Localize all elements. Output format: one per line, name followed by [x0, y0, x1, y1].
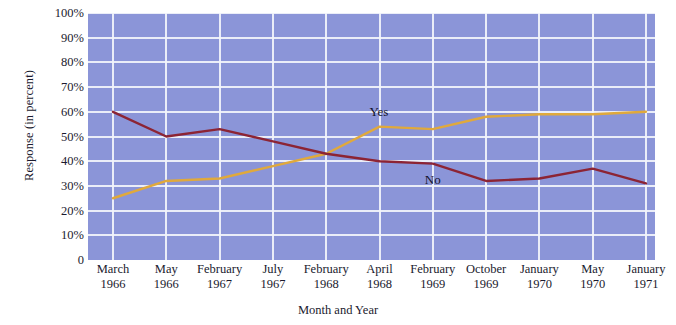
x-axis-tick-year: 1967 — [260, 277, 285, 292]
y-axis-tick: 60% — [61, 106, 84, 119]
x-axis-tick: February1967 — [197, 262, 242, 292]
x-axis-tick: March1966 — [97, 262, 130, 292]
y-axis-tick: 10% — [61, 229, 84, 242]
x-axis-tick-month: April — [366, 262, 392, 277]
y-axis-tick: 80% — [61, 56, 84, 69]
x-axis-tick-month: January — [627, 262, 666, 277]
series-label-no: No — [425, 172, 441, 188]
y-axis-tick: 50% — [61, 130, 84, 143]
x-axis-tick-labels: March1966May1966February1967July1967Febr… — [0, 262, 676, 302]
x-axis-tick-year: 1967 — [197, 277, 242, 292]
x-axis-tick-month: February — [410, 262, 455, 277]
x-axis-tick-year: 1969 — [410, 277, 455, 292]
x-axis-tick-month: March — [97, 262, 130, 277]
y-axis-tick: 100% — [55, 7, 84, 20]
x-axis-tick-year: 1969 — [466, 277, 506, 292]
x-axis-tick-year: 1966 — [97, 277, 130, 292]
plot-area: Yes No — [88, 13, 655, 260]
x-axis-tick-year: 1971 — [627, 277, 666, 292]
y-axis-tick: 40% — [61, 155, 84, 168]
x-axis-tick: May1966 — [154, 262, 179, 292]
x-axis-tick-month: May — [154, 262, 179, 277]
x-axis-tick: May1970 — [580, 262, 605, 292]
x-axis-tick: February1969 — [410, 262, 455, 292]
x-axis-tick: February1968 — [304, 262, 349, 292]
y-axis-tick: 30% — [61, 180, 84, 193]
x-axis-tick-month: January — [520, 262, 559, 277]
y-axis-tick: 90% — [61, 31, 84, 44]
x-axis-tick: April1968 — [366, 262, 392, 292]
x-axis-tick-year: 1968 — [366, 277, 392, 292]
x-axis-tick: January1971 — [627, 262, 666, 292]
x-axis-tick-month: October — [466, 262, 506, 277]
x-axis-tick-year: 1968 — [304, 277, 349, 292]
series-label-yes: Yes — [370, 104, 389, 120]
y-axis-tick: 70% — [61, 81, 84, 94]
series-line-yes — [113, 112, 646, 198]
x-axis-tick: July1967 — [260, 262, 285, 292]
line-chart: Response (in percent) 100%90%80%70%60%50… — [0, 0, 676, 325]
x-axis-tick-year: 1970 — [520, 277, 559, 292]
x-axis-tick: January1970 — [520, 262, 559, 292]
x-axis-tick-month: May — [580, 262, 605, 277]
series-lines — [88, 13, 655, 260]
x-axis-tick-month: February — [304, 262, 349, 277]
x-axis-tick-month: February — [197, 262, 242, 277]
x-axis-tick-year: 1970 — [580, 277, 605, 292]
series-line-no — [113, 112, 646, 184]
x-axis-tick-month: July — [260, 262, 285, 277]
y-axis-tick: 20% — [61, 204, 84, 217]
x-axis-tick: October1969 — [466, 262, 506, 292]
x-axis-title: Month and Year — [0, 303, 676, 318]
x-axis-tick-year: 1966 — [154, 277, 179, 292]
